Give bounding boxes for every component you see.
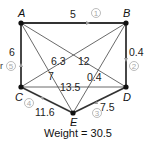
vertex-C: [18, 84, 23, 89]
svg-text:5: 5: [9, 62, 14, 71]
weight-label-E-C: 11.6: [35, 106, 55, 118]
svg-text:2: 2: [132, 62, 137, 71]
weight-label-B-E: 0.4: [87, 71, 102, 83]
svg-text:4: 4: [27, 99, 32, 108]
vertex-B: [123, 20, 128, 25]
vertex-label-D: D: [123, 91, 131, 103]
arrow-icon-E-C: [40, 97, 44, 100]
total-weight-caption: Weight = 30.5: [44, 127, 112, 139]
cropped-text-fragment: r: [0, 61, 3, 71]
order-badge-3: 3: [93, 109, 102, 119]
vertex-label-B: B: [123, 7, 130, 19]
order-badge-1: 1: [92, 9, 101, 19]
arrow-icon-A-B: [86, 21, 90, 25]
order-badge-2: 2: [130, 62, 139, 72]
arrow-icon-C-A: [19, 63, 23, 67]
order-badge-4: 4: [25, 99, 34, 109]
vertex-E: [70, 110, 75, 115]
weight-label-B-D: 0.4: [129, 46, 144, 58]
vertex-D: [123, 84, 128, 89]
svg-text:1: 1: [94, 9, 99, 18]
arrow-icon-B-D: [124, 58, 128, 62]
weight-label-B-C: 6.3: [51, 55, 66, 67]
order-badge-5: 5: [7, 62, 16, 72]
weight-label-C-D: 13.5: [60, 81, 81, 93]
weight-label-A-D: 12: [78, 55, 90, 67]
weight-label-D-E: 7.5: [100, 101, 115, 113]
hamiltonian-circuit-diagram: A B C D E 5 0.4 7.5 11.6 6 12 7 6.3 0.4 …: [0, 0, 145, 143]
vertex-label-A: A: [17, 7, 25, 19]
vertex-A: [18, 20, 23, 25]
vertex-label-C: C: [15, 91, 23, 103]
svg-text:3: 3: [95, 109, 100, 118]
weight-label-A-B: 5: [70, 8, 76, 20]
weight-label-C-A: 6: [9, 46, 15, 58]
weight-label-A-E: 7: [48, 70, 54, 82]
